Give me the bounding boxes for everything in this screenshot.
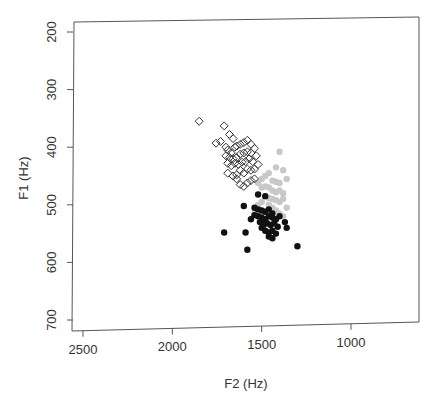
black-dot-marker bbox=[262, 193, 268, 199]
black-dot-marker bbox=[242, 229, 248, 235]
black-dot-marker bbox=[241, 203, 247, 209]
y-tick-label: 700 bbox=[44, 309, 59, 331]
plot-area bbox=[72, 17, 419, 331]
x-axis-label: F2 (Hz) bbox=[224, 376, 267, 391]
y-tick-label: 200 bbox=[44, 21, 59, 43]
gray-dot-marker bbox=[283, 176, 289, 182]
y-axis: 200300400500600700 bbox=[44, 21, 73, 331]
scatter-chart: 200300400500600700 2500200015001000 F2 (… bbox=[0, 0, 432, 405]
diamond-marker bbox=[224, 169, 232, 177]
diamond-marker bbox=[229, 135, 237, 143]
black-dot-marker bbox=[282, 219, 288, 225]
black-dot-marker bbox=[283, 225, 289, 231]
gray-dot-marker bbox=[273, 164, 279, 170]
diamond-marker bbox=[251, 144, 259, 152]
plot-frame bbox=[72, 17, 419, 331]
black-dot-marker bbox=[276, 213, 282, 219]
x-tick-label: 2000 bbox=[158, 339, 187, 354]
diamond-marker bbox=[247, 140, 255, 148]
black-dot-marker bbox=[255, 191, 261, 197]
x-tick-label: 1000 bbox=[337, 335, 366, 350]
black-dot-marker bbox=[294, 243, 300, 249]
diamond-marker bbox=[195, 117, 203, 125]
black-dot-marker bbox=[248, 216, 254, 222]
black-dot-marker bbox=[275, 223, 281, 229]
gray-dot-marker bbox=[276, 149, 282, 155]
y-tick-label: 600 bbox=[44, 252, 59, 274]
x-axis: 2500200015001000 bbox=[69, 324, 366, 357]
diamond-marker bbox=[226, 131, 234, 139]
gray-dot-marker bbox=[280, 196, 286, 202]
data-points bbox=[195, 117, 300, 253]
y-tick-label: 400 bbox=[44, 136, 59, 158]
diamond-marker bbox=[254, 160, 262, 168]
x-tick-label: 2500 bbox=[69, 342, 98, 357]
gray-dot-marker bbox=[280, 190, 286, 196]
gray-dot-marker bbox=[283, 204, 289, 210]
y-axis-label: F1 (Hz) bbox=[16, 156, 31, 199]
black-dot-marker bbox=[269, 235, 275, 241]
diamond-marker bbox=[243, 148, 251, 156]
x-tick-label: 1500 bbox=[247, 337, 276, 352]
gray-dot-marker bbox=[276, 180, 282, 186]
y-tick-label: 500 bbox=[44, 194, 59, 216]
black-dot-marker bbox=[244, 247, 250, 253]
gray-dot-marker bbox=[280, 167, 286, 173]
y-tick-label: 300 bbox=[44, 79, 59, 101]
diamond-marker bbox=[220, 122, 228, 130]
black-dot-marker bbox=[221, 229, 227, 235]
